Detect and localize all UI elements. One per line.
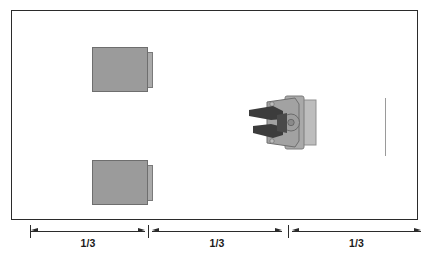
- dimension-segment-2: 1/3: [152, 224, 282, 258]
- dimension-rule: [31, 231, 145, 232]
- dimension-segment-3: 1/3: [292, 224, 421, 258]
- dimension-segment-1: 1/3: [31, 224, 145, 258]
- lower-part-body: [92, 160, 148, 205]
- dimension-tick-second-third: [288, 225, 289, 238]
- arrow-right-icon: [138, 228, 145, 232]
- lower-part-box: [92, 160, 155, 205]
- upper-part-box: [92, 47, 155, 92]
- arrow-left-icon: [152, 228, 159, 232]
- upper-part-body: [92, 47, 148, 92]
- workspace-boundary: [11, 10, 418, 220]
- dimension-rule: [152, 231, 282, 232]
- arrow-right-icon: [414, 228, 421, 232]
- technical-diagram: 1/3 1/3 1/3: [0, 0, 429, 258]
- dimension-tick-first-third: [148, 225, 149, 238]
- robot-gripper-icon: [247, 94, 319, 152]
- arrow-left-icon: [292, 228, 299, 232]
- dimension-label-3: 1/3: [292, 237, 421, 249]
- dimension-rule: [292, 231, 421, 232]
- dimension-label-1: 1/3: [31, 237, 145, 249]
- dimension-label-2: 1/3: [152, 237, 282, 249]
- arrow-left-icon: [31, 228, 38, 232]
- vertical-reference-line: [385, 98, 386, 156]
- dimension-strip: 1/3 1/3 1/3: [0, 224, 429, 258]
- arrow-right-icon: [275, 228, 282, 232]
